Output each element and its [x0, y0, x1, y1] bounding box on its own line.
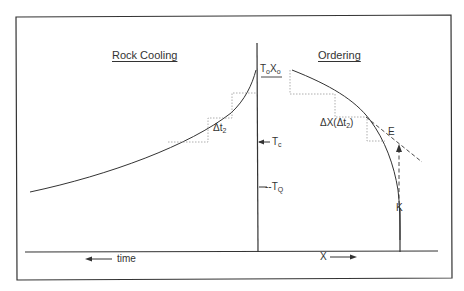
equilibrium-tangent: [366, 117, 422, 162]
e-label: E: [388, 127, 395, 137]
rock-cooling-staircase: [168, 93, 257, 142]
x-arrowhead: [350, 255, 357, 260]
tc-arrowhead: [258, 140, 264, 145]
delta-t2-label: Δt2: [213, 123, 226, 134]
central-axis: [257, 43, 258, 252]
time-arrowhead: [85, 257, 92, 262]
ordering-curve: [292, 70, 400, 240]
tq-label: --TQ: [265, 182, 283, 193]
ordering-title: Ordering: [318, 50, 361, 61]
k-label: K: [396, 203, 403, 213]
tc-label: Tc: [272, 137, 282, 148]
delta-x-label: ΔX(Δt2): [320, 118, 353, 129]
ordering-staircase: [290, 70, 385, 141]
outer-frame: [16, 15, 452, 280]
x-axis-label: X: [320, 252, 327, 262]
t0x0-label: ToXo: [260, 64, 281, 75]
kinetic-arrowhead: [396, 144, 402, 152]
rock-cooling-title: Rock Cooling: [112, 50, 177, 61]
time-axis-label: time: [117, 254, 136, 264]
baseline: [25, 251, 438, 252]
diagram-canvas: [0, 0, 464, 291]
